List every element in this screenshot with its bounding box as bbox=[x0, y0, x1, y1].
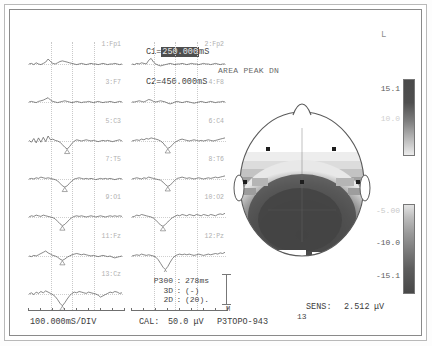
axis-tick bbox=[131, 308, 132, 311]
peak-marker bbox=[163, 270, 168, 272]
trace-svg bbox=[131, 119, 226, 157]
measurement-name: 2D bbox=[143, 295, 173, 305]
amplitude-scale-cap-top bbox=[222, 274, 231, 275]
peak-marker bbox=[60, 260, 65, 264]
waveform-trace-1-fp1[interactable]: 1:Fp1 bbox=[28, 42, 123, 80]
trace-svg bbox=[131, 80, 226, 118]
marker-label: M bbox=[226, 305, 230, 314]
trace-svg bbox=[28, 119, 123, 157]
time-axis-col2 bbox=[131, 310, 227, 311]
waveform-column-odd: 1:Fp13:F75:C37:T59:O111:Fz13:Cz bbox=[28, 42, 123, 310]
waveform-panel[interactable]: 1:Fp13:F75:C37:T59:O111:Fz13:Cz 2:Fp24:F… bbox=[28, 42, 228, 310]
axis-tick bbox=[76, 308, 77, 311]
measurement-row: 3D:(-) bbox=[143, 286, 209, 296]
measurement-name: P300 bbox=[143, 276, 173, 286]
trace-svg bbox=[131, 42, 226, 80]
waveform-trace-3-f7[interactable]: 3:F7 bbox=[28, 80, 123, 118]
axis-tick bbox=[191, 308, 192, 311]
ear-right bbox=[360, 175, 370, 201]
app-screen: C1=250.000mS C2=450.000mS L AREA PEAK DN… bbox=[0, 0, 432, 346]
measurement-value: 278ms bbox=[185, 276, 209, 286]
measurement-value: (-) bbox=[185, 286, 199, 296]
trace-svg bbox=[131, 195, 226, 233]
measurement-separator: : bbox=[173, 276, 185, 286]
peak-marker bbox=[165, 148, 170, 152]
measurement-name: 3D bbox=[143, 286, 173, 296]
colorbar-negative bbox=[403, 204, 415, 294]
electrode-dot[interactable] bbox=[243, 180, 247, 184]
measurement-separator: : bbox=[173, 295, 185, 305]
electrode-dot[interactable] bbox=[300, 180, 304, 184]
inner-frame: C1=250.000mS C2=450.000mS L AREA PEAK DN… bbox=[9, 9, 422, 336]
axis-tick bbox=[179, 308, 180, 311]
cal-value: 50.0 μV bbox=[168, 318, 204, 327]
axis-tick bbox=[112, 308, 113, 311]
amplitude-scale-bar bbox=[226, 274, 227, 304]
peak-marker bbox=[65, 149, 70, 153]
colorbar-tick-10-0: 10.0 bbox=[367, 114, 400, 123]
colorbar-tick-15-1: 15.1 bbox=[367, 84, 400, 93]
waveform-column-even: 2:Fp24:F86:C48:T610:O212:Pz bbox=[131, 42, 226, 310]
waveform-trace-4-f8[interactable]: 4:F8 bbox=[131, 80, 226, 118]
axis-tick bbox=[64, 308, 65, 311]
waveform-trace-2-fp2[interactable]: 2:Fp2 bbox=[131, 42, 226, 80]
axis-tick bbox=[124, 308, 125, 311]
axis-tick bbox=[52, 308, 53, 311]
study-id-label: P3TOPO-943 bbox=[217, 318, 268, 327]
trace-svg bbox=[131, 234, 226, 272]
trace-svg bbox=[28, 42, 123, 80]
channel-count-label: 13 bbox=[297, 312, 307, 321]
electrode-dot[interactable] bbox=[332, 147, 336, 151]
colorbar-tick-neg-10-0: -10.0 bbox=[362, 238, 400, 247]
waveform-trace-10-o2[interactable]: 10:O2 bbox=[131, 195, 226, 233]
peak-marker bbox=[60, 226, 65, 230]
waveform-trace-5-c3[interactable]: 5:C3 bbox=[28, 119, 123, 157]
measurement-value: (20). bbox=[185, 295, 209, 305]
waveform-trace-13-cz[interactable]: 13:Cz bbox=[28, 272, 123, 310]
measurement-row: P300:278ms bbox=[143, 276, 209, 286]
sens-unit: μV bbox=[374, 303, 384, 312]
axis-tick bbox=[40, 308, 41, 311]
trace-svg bbox=[28, 157, 123, 195]
colorbar-tick-neg-15-1: -15.1 bbox=[362, 271, 400, 280]
colorbar-positive bbox=[403, 79, 415, 156]
ear-left bbox=[234, 175, 244, 201]
trace-svg bbox=[28, 80, 123, 118]
topographic-head-map[interactable] bbox=[232, 92, 372, 268]
sens-value: 2.512 bbox=[344, 303, 370, 312]
trace-svg bbox=[28, 234, 123, 272]
trace-svg bbox=[28, 272, 123, 310]
axis-tick bbox=[143, 308, 144, 311]
colorbar-tick-neg-5-0: -5.00 bbox=[362, 206, 400, 215]
waveform-trace-11-fz[interactable]: 11:Fz bbox=[28, 234, 123, 272]
time-per-div-label: 100.000mS/DIV bbox=[30, 318, 96, 327]
amplitude-scale-cap-bottom bbox=[222, 304, 231, 305]
measurement-block: P300:278ms3D:(-)2D:(20). bbox=[143, 276, 209, 305]
electrode-dot[interactable] bbox=[266, 147, 270, 151]
waveform-trace-8-t6[interactable]: 8:T6 bbox=[131, 157, 226, 195]
axis-tick bbox=[28, 308, 29, 311]
trace-svg bbox=[28, 195, 123, 233]
waveform-trace-6-c4[interactable]: 6:C4 bbox=[131, 119, 226, 157]
peak-marker bbox=[62, 187, 67, 191]
peak-marker bbox=[160, 227, 165, 231]
time-axis-col1 bbox=[28, 310, 124, 311]
peak-marker bbox=[165, 187, 170, 191]
waveform-trace-9-o1[interactable]: 9:O1 bbox=[28, 195, 123, 233]
axis-tick bbox=[167, 308, 168, 311]
measurement-separator: : bbox=[173, 286, 185, 296]
axis-tick bbox=[203, 308, 204, 311]
waveform-trace-12-pz[interactable]: 12:Pz bbox=[131, 234, 226, 272]
axis-tick bbox=[155, 308, 156, 311]
electrode-dot[interactable] bbox=[356, 180, 360, 184]
axis-tick bbox=[88, 308, 89, 311]
axis-tick bbox=[100, 308, 101, 311]
trace-svg bbox=[131, 157, 226, 195]
axis-tick bbox=[215, 308, 216, 311]
nose-marker bbox=[293, 104, 311, 115]
measurement-row: 2D:(20). bbox=[143, 295, 209, 305]
sens-label: SENS: bbox=[306, 303, 332, 312]
orientation-label-left: L bbox=[381, 31, 386, 40]
cal-label: CAL: bbox=[139, 318, 159, 327]
waveform-trace-7-t5[interactable]: 7:T5 bbox=[28, 157, 123, 195]
